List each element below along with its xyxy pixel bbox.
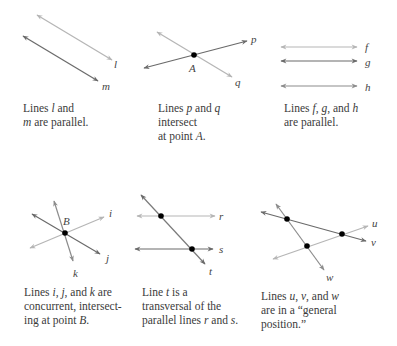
label-i: i [109, 208, 112, 219]
label-h: h [365, 82, 371, 93]
caption-general-uvw: Lines u, v, and w are in a “general posi… [261, 289, 339, 331]
line-m [23, 36, 98, 81]
caption-intersect-pq: Lines p and q intersect at point A. [158, 101, 220, 143]
line-u [273, 226, 368, 259]
panel-concurrent-ijk [30, 201, 104, 261]
point-st [189, 246, 195, 252]
caption-transversal-trs: Line t is a transversal of the parallel … [142, 285, 238, 327]
panel-parallel-lm [23, 15, 112, 81]
label-s: s [219, 244, 223, 255]
label-p: p [251, 34, 257, 45]
point-vw [284, 216, 290, 222]
panel-general-uvw [261, 204, 368, 270]
label-a: A [189, 63, 196, 74]
point-uv [339, 231, 345, 237]
label-f: f [365, 42, 368, 53]
label-b: B [63, 216, 70, 227]
line-l [37, 15, 112, 60]
caption-parallel-lm: Lines l and m are parallel. [23, 101, 88, 129]
label-w: w [326, 272, 333, 283]
line-t [141, 195, 205, 264]
label-v: v [371, 237, 376, 248]
line-w [276, 204, 324, 270]
label-j: j [106, 253, 109, 264]
label-m: m [102, 81, 110, 92]
label-l: l [114, 59, 117, 70]
point-b [62, 230, 68, 236]
point-uw [304, 243, 310, 249]
label-u: u [372, 218, 378, 229]
label-k: k [73, 268, 78, 279]
point-a [191, 52, 197, 58]
panel-transversal-trs [135, 195, 215, 264]
label-q: q [235, 77, 241, 88]
caption-concurrent-ijk: Lines i, j, and k are concurrent, inters… [24, 285, 122, 327]
label-g: g [365, 57, 371, 68]
label-t: t [209, 266, 212, 277]
line-v [261, 212, 366, 241]
point-rt [158, 213, 164, 219]
label-r: r [219, 211, 223, 222]
caption-parallel-fgh: Lines f, g, and h are parallel. [284, 101, 358, 129]
panel-parallel-fgh [281, 47, 357, 86]
